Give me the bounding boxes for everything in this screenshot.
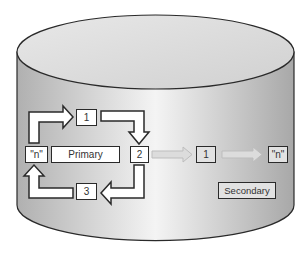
diagram-canvas	[0, 0, 308, 264]
primary-label: Primary	[51, 146, 120, 163]
cylinder-top	[17, 15, 294, 89]
primary-step-2: 2	[130, 146, 149, 163]
secondary-step-1: 1	[196, 146, 216, 163]
secondary-label: Secondary	[218, 182, 276, 199]
primary-step-3: 3	[76, 183, 97, 200]
primary-step-n: "n"	[25, 146, 48, 163]
primary-step-1: 1	[76, 109, 97, 126]
secondary-step-n: "n"	[268, 146, 288, 163]
